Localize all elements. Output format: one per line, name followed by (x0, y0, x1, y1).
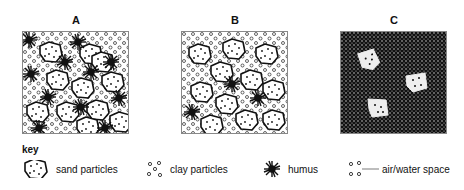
clay-particles-icon (146, 160, 164, 178)
key-label-sand: sand particles (56, 164, 118, 175)
soil-panel-c (340, 31, 447, 134)
key-item-clay: clay particles (146, 160, 228, 178)
key-item-humus: humus (262, 160, 318, 178)
soil-c-illustration (341, 32, 447, 134)
air-water-space-icon (348, 160, 380, 178)
key-label-air-water: air/water space (382, 164, 450, 175)
soil-panel-a (22, 31, 129, 134)
soil-panel-b (181, 31, 288, 134)
key-item-air-water: air/water space (348, 160, 450, 178)
panel-c-label: C (340, 14, 448, 26)
soil-a-illustration (23, 32, 129, 134)
key-label-clay: clay particles (170, 164, 228, 175)
panel-b-label: B (181, 14, 289, 26)
key-item-sand: sand particles (22, 160, 118, 178)
key-title: key (22, 144, 39, 155)
soil-b-illustration (182, 32, 288, 134)
key-label-humus: humus (288, 164, 318, 175)
panel-a-label: A (22, 14, 130, 26)
sand-particle-icon (22, 160, 50, 178)
humus-icon (262, 160, 282, 178)
